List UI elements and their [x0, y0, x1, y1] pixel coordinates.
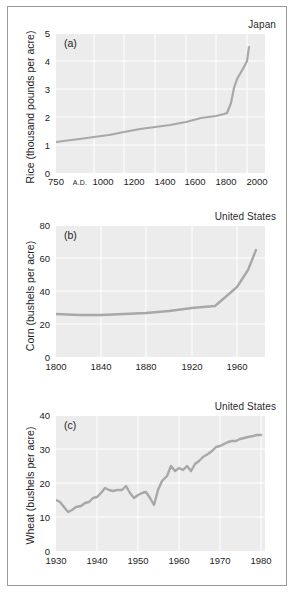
panel-c-plot-area: (c)	[56, 415, 265, 551]
panel-c-xtick-1980: 1980	[250, 555, 271, 566]
panel-a-y-axis-title: Rice (thousand pounds per acre)	[24, 27, 38, 187]
chart-panel-c: United States Wheat (bushels per acre) (…	[8, 393, 288, 583]
panel-b-svg	[56, 225, 265, 357]
panel-b-plot-area: (b)	[56, 225, 265, 357]
panel-b-ytick-20: 20	[30, 319, 50, 330]
panel-c-xtick-1970: 1970	[209, 555, 230, 566]
panel-a-xtick-1600: 1600	[184, 176, 205, 187]
panel-a-svg	[56, 33, 265, 173]
panel-b-ytick-80: 80	[30, 220, 50, 231]
panel-b-tag: (b)	[64, 229, 77, 241]
panel-a-xtick-1400: 1400	[154, 176, 175, 187]
panel-c-xtick-1960: 1960	[168, 555, 189, 566]
panel-c-ytick-20: 20	[30, 478, 50, 489]
panel-a-xtick-750: 750	[48, 176, 64, 187]
figure-frame: Japan Rice (thousand pounds per acre)	[7, 6, 287, 586]
panel-a-xaxis-era-note: A.D.	[73, 179, 87, 186]
panel-c-ytick-30: 30	[30, 444, 50, 455]
panel-b-xtick-1800: 1800	[45, 361, 66, 372]
panel-c-xtick-1930: 1930	[45, 555, 66, 566]
panel-c-ytick-40: 40	[30, 410, 50, 421]
panel-b-data-line	[56, 250, 256, 315]
chart-panel-a: Japan Rice (thousand pounds per acre)	[8, 11, 288, 203]
panel-a-region-label: Japan	[248, 19, 276, 30]
panel-b-xtick-1920: 1920	[181, 361, 202, 372]
panel-b-region-label: United States	[215, 211, 276, 222]
panel-c-data-line	[56, 435, 261, 512]
panel-a-xtick-1800: 1800	[215, 176, 236, 187]
panel-b-xtick-1880: 1880	[135, 361, 156, 372]
panel-a-ytick-2: 2	[34, 112, 50, 123]
panel-c-region-label: United States	[215, 401, 276, 412]
panel-a-ytick-1: 1	[34, 140, 50, 151]
panel-b-xtick-1840: 1840	[90, 361, 111, 372]
panel-a-ytick-4: 4	[34, 56, 50, 67]
panel-c-ytick-10: 10	[30, 512, 50, 523]
panel-c-tag: (c)	[64, 419, 76, 431]
panel-a-ytick-3: 3	[34, 84, 50, 95]
panel-c-xtick-1940: 1940	[86, 555, 107, 566]
panel-a-tag: (a)	[64, 37, 77, 49]
panel-a-xtick-1000: 1000	[92, 176, 113, 187]
panel-a-plot-area: (a)	[56, 33, 265, 173]
panel-b-ytick-60: 60	[30, 253, 50, 264]
panel-a-xtick-1200: 1200	[123, 176, 144, 187]
chart-panel-b: United States Corn (bushels per acre) (b…	[8, 203, 288, 393]
panel-c-xtick-1950: 1950	[127, 555, 148, 566]
panel-b-xtick-1960: 1960	[226, 361, 247, 372]
panel-c-svg	[56, 415, 265, 551]
panel-a-xtick-2000: 2000	[246, 176, 267, 187]
panel-a-gridlines	[56, 33, 265, 173]
panel-b-ytick-40: 40	[30, 286, 50, 297]
panel-a-ytick-5: 5	[34, 28, 50, 39]
